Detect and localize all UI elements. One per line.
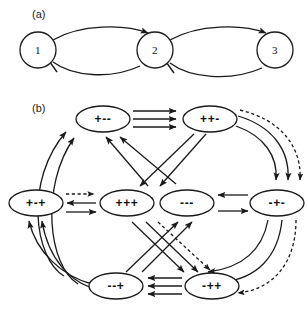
node-1-label: 1 bbox=[35, 44, 41, 56]
node-ppm-label: ++- bbox=[200, 112, 220, 126]
node-mmm: --- bbox=[160, 190, 214, 216]
edge-group-triple-bottom bbox=[148, 278, 182, 294]
edge-group-triple-top bbox=[133, 111, 176, 127]
edge-mmp-to-pmp-inner bbox=[42, 221, 100, 290]
panel-b-label: (b) bbox=[32, 102, 45, 114]
edge-2-to-1-inhibition bbox=[53, 62, 140, 75]
node-1: 1 bbox=[20, 32, 56, 68]
node-pmp: +-+ bbox=[9, 190, 63, 216]
figure-container: (a) 1 2 3 (b) bbox=[0, 0, 308, 310]
panel-a: (a) 1 2 3 bbox=[20, 8, 293, 77]
edge-3-to-2-inhibition bbox=[170, 63, 262, 77]
node-ppp: +++ bbox=[100, 190, 154, 216]
edge-1-to-2-activation bbox=[53, 27, 148, 40]
node-mmp: --+ bbox=[89, 273, 143, 299]
node-mpp-label: -++ bbox=[202, 279, 222, 293]
edge-mpm-to-mpp-3-dashed bbox=[238, 220, 296, 293]
node-3-label: 3 bbox=[272, 44, 278, 56]
edge-ppp-to-mpp-diagonal-2 bbox=[146, 222, 198, 272]
node-mpp: -++ bbox=[185, 273, 239, 299]
node-2-label: 2 bbox=[152, 44, 158, 56]
edge-group-right-pair bbox=[218, 195, 248, 211]
node-mmm-label: --- bbox=[180, 196, 194, 210]
edge-ppp-to-mpp-diagonal-1 bbox=[132, 222, 184, 272]
node-ppp-label: +++ bbox=[116, 196, 139, 210]
node-mpm: -+- bbox=[250, 190, 304, 216]
node-2: 2 bbox=[137, 32, 173, 68]
edge-ppm-to-mpm-2 bbox=[238, 116, 288, 180]
edge-ppp-to-pmm-diagonal bbox=[106, 137, 148, 186]
node-mmp-label: --+ bbox=[108, 279, 125, 293]
edge-group-upper-cross bbox=[106, 134, 206, 186]
edge-group-lower-cross bbox=[126, 222, 210, 272]
edge-group-left-pair bbox=[66, 194, 96, 212]
node-3: 3 bbox=[257, 32, 293, 68]
edge-mpm-to-mpp-1 bbox=[208, 220, 268, 272]
edge-mmp-to-pmp-outer bbox=[29, 221, 92, 284]
figure-svg: (a) 1 2 3 (b) bbox=[0, 0, 308, 310]
edge-group-right-outer-curve bbox=[236, 110, 300, 180]
node-pmp-label: +-+ bbox=[26, 196, 46, 210]
edge-mmp-to-mmm-diagonal bbox=[126, 222, 178, 272]
panel-a-label: (a) bbox=[32, 8, 45, 20]
node-mpm-label: -+- bbox=[269, 196, 286, 210]
edge-2-to-3-activation bbox=[170, 27, 266, 40]
node-ppm: ++- bbox=[183, 106, 237, 132]
panel-b: (b) bbox=[9, 102, 304, 299]
node-pmm-label: +-- bbox=[95, 112, 112, 126]
node-pmm: +-- bbox=[76, 106, 130, 132]
